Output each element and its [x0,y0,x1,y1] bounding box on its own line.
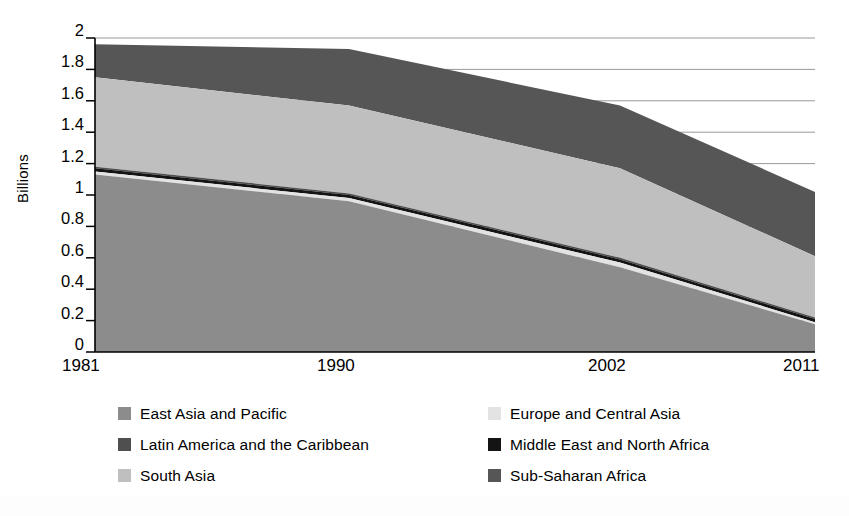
legend-swatch-icon [118,469,131,482]
legend-label: South Asia [140,467,215,485]
legend-label: East Asia and Pacific [140,405,287,423]
legend-item-east-asia-and-pacific[interactable]: East Asia and Pacific [118,398,488,429]
legend-label: Latin America and the Caribbean [140,436,369,454]
figure-root: Billions 2 1.8 1.6 1.4 1.2 1 0.8 0.6 0.4… [0,0,849,516]
plot-area: Billions 2 1.8 1.6 1.4 1.2 1 0.8 0.6 0.4… [0,0,849,400]
x-tick-label: 2011 [783,356,820,376]
page-bottom-margin [0,497,849,516]
legend-item-europe-and-central-asia[interactable]: Europe and Central Asia [488,398,818,429]
legend-label: Middle East and North Africa [510,436,709,454]
legend-label: Sub-Saharan Africa [510,467,646,485]
legend-swatch-icon [118,407,131,420]
legend-swatch-icon [118,438,131,451]
x-tick-label: 2002 [588,356,626,376]
legend-swatch-icon [488,469,501,482]
chart-legend: East Asia and Pacific Europe and Central… [118,398,818,491]
x-tick-label: 1990 [317,356,355,376]
legend-item-sub-saharan-africa[interactable]: Sub-Saharan Africa [488,460,818,491]
legend-swatch-icon [488,407,501,420]
legend-label: Europe and Central Asia [510,405,680,423]
legend-item-middle-east-and-north-africa[interactable]: Middle East and North Africa [488,429,818,460]
stacked-bands [95,44,815,352]
x-tick-label: 1981 [62,356,100,376]
legend-item-south-asia[interactable]: South Asia [118,460,488,491]
legend-swatch-icon [488,438,501,451]
legend-item-latin-america-and-the-caribbean[interactable]: Latin America and the Caribbean [118,429,488,460]
stacked-area-chart [0,0,849,400]
x-axis-tick-labels: 1981 1990 2002 2011 [0,356,849,386]
y-tick-marks [86,38,95,352]
